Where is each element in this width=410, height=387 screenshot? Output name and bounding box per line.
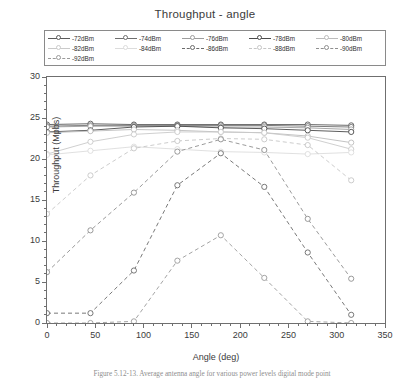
x-minor-tick [269, 323, 270, 326]
y-major-tick [42, 77, 47, 78]
x-minor-tick [56, 323, 57, 326]
data-point-marker [88, 129, 93, 134]
data-point-marker [349, 320, 354, 323]
y-minor-tick [44, 314, 47, 315]
y-minor-tick [44, 191, 47, 192]
x-major-tick [385, 323, 386, 328]
data-point-marker [175, 129, 180, 134]
y-minor-tick [44, 85, 47, 86]
x-major-tick [240, 323, 241, 328]
legend-item: -92dBm [48, 53, 115, 63]
data-point-marker [131, 146, 136, 151]
data-point-marker [47, 311, 50, 316]
legend-swatch-icon [249, 34, 271, 43]
x-major-tick [288, 323, 289, 328]
x-tick-label: 350 [367, 330, 403, 340]
data-point-marker [262, 275, 267, 280]
legend-label: -84dBm [139, 44, 161, 51]
legend-swatch-icon [316, 34, 338, 43]
x-minor-tick [317, 323, 318, 326]
y-minor-tick [44, 150, 47, 151]
legend-swatch-icon [48, 34, 70, 43]
data-point-marker [349, 312, 354, 317]
x-minor-tick [259, 323, 260, 326]
x-tick-label: 300 [319, 330, 355, 340]
x-tick-label: 100 [126, 330, 162, 340]
plot-canvas [47, 77, 385, 323]
data-point-marker [218, 151, 223, 156]
data-point-marker [262, 137, 267, 142]
series-line [47, 235, 351, 323]
legend-item: -78dBm [249, 33, 316, 43]
x-minor-tick [230, 323, 231, 326]
legend: -72dBm-74dBm-76dBm-78dBm-80dBm-82dBm-84d… [44, 30, 386, 66]
data-point-marker [175, 183, 180, 188]
data-point-marker [218, 129, 223, 134]
x-major-tick [191, 323, 192, 328]
y-minor-tick [44, 298, 47, 299]
legend-swatch-icon [48, 44, 70, 53]
x-minor-tick [114, 323, 115, 326]
data-point-marker [305, 142, 310, 147]
legend-label: -82dBm [72, 44, 94, 51]
legend-item: -82dBm [48, 43, 115, 53]
legend-item: -74dBm [115, 33, 182, 43]
legend-label: -80dBm [340, 34, 362, 41]
y-major-tick [42, 118, 47, 119]
data-point-marker [88, 311, 93, 316]
legend-label: -72dBm [72, 34, 94, 41]
legend-label: -86dBm [206, 44, 228, 51]
legend-item: -86dBm [182, 43, 249, 53]
y-tick-label: 20 [10, 153, 40, 163]
legend-swatch-icon [115, 44, 137, 53]
series-90dBm [47, 137, 354, 282]
legend-swatch-icon [115, 34, 137, 43]
y-tick-label: 15 [10, 194, 40, 204]
data-point-marker [175, 258, 180, 263]
legend-item: -80dBm [316, 33, 383, 43]
data-point-marker [175, 138, 180, 143]
legend-swatch-icon [182, 34, 204, 43]
legend-item: -90dBm [316, 43, 383, 53]
y-tick-label: 10 [10, 235, 40, 245]
y-minor-tick [44, 273, 47, 274]
x-major-tick [143, 323, 144, 328]
y-minor-tick [44, 216, 47, 217]
x-tick-label: 200 [222, 330, 258, 340]
x-minor-tick [211, 323, 212, 326]
y-minor-tick [44, 134, 47, 135]
y-minor-tick [44, 306, 47, 307]
legend-label: -90dBm [340, 44, 362, 51]
x-minor-tick [153, 323, 154, 326]
legend-label: -88dBm [273, 44, 295, 51]
x-minor-tick [85, 323, 86, 326]
data-point-marker [47, 211, 50, 216]
y-minor-tick [44, 109, 47, 110]
y-minor-tick [44, 290, 47, 291]
y-minor-tick [44, 257, 47, 258]
legend-swatch-icon [48, 54, 70, 63]
y-minor-tick [44, 142, 47, 143]
legend-swatch-icon [316, 44, 338, 53]
x-minor-tick [298, 323, 299, 326]
x-minor-tick [249, 323, 250, 326]
y-minor-tick [44, 167, 47, 168]
x-minor-tick [124, 323, 125, 326]
data-point-marker [47, 152, 50, 157]
data-point-marker [305, 151, 310, 156]
legend-items: -72dBm-74dBm-76dBm-78dBm-80dBm-82dBm-84d… [48, 33, 383, 63]
legend-item: -88dBm [249, 43, 316, 53]
x-major-tick [336, 323, 337, 328]
y-minor-tick [44, 126, 47, 127]
legend-label: -76dBm [206, 34, 228, 41]
plot-area [46, 76, 386, 324]
x-minor-tick [346, 323, 347, 326]
data-point-marker [349, 140, 354, 145]
legend-item: -72dBm [48, 33, 115, 43]
y-minor-tick [44, 175, 47, 176]
y-major-tick [42, 200, 47, 201]
data-point-marker [305, 216, 310, 221]
x-minor-tick [162, 323, 163, 326]
y-tick-label: 25 [10, 112, 40, 122]
data-point-marker [262, 130, 267, 135]
